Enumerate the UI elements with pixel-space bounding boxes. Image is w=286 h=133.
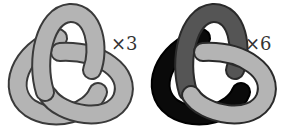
multiplier-label-6: ×6: [245, 33, 272, 54]
trefoil-knot-gray: [0, 0, 143, 133]
trefoil-knot-tricolored: [143, 0, 286, 133]
multiplier-label-3: ×3: [111, 33, 138, 54]
